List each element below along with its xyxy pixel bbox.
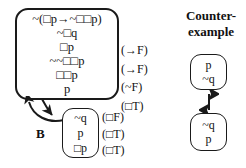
main-tableau-box: ~(□p→~□□p) ~□q □p ~~□□p □□p p — [15, 8, 119, 100]
lower-line-2: p — [78, 127, 84, 139]
ce-top-line-2: ~q — [202, 73, 215, 85]
lower-rule-3: (□T) — [102, 144, 125, 156]
ce-bottom-line-1: ~q — [202, 119, 215, 131]
counterexample-world-top: p ~q — [190, 54, 227, 90]
counterexample-world-bottom: ~q p — [190, 113, 227, 151]
relation-label-b: B — [36, 126, 45, 142]
main-rule-3: (~F) — [121, 81, 148, 93]
counterexample-title: Counter- example — [176, 8, 246, 40]
diagram-canvas: ~(□p→~□□p) ~□q □p ~~□□p □□p p (→F) (→F) … — [0, 0, 246, 168]
accessible-world-box: ~q p □p — [62, 108, 99, 158]
counterexample-title-line-1: Counter- — [176, 8, 246, 24]
main-line-6: p — [64, 83, 70, 96]
ce-bottom-line-2: p — [206, 133, 212, 145]
lower-line-3: □p — [74, 142, 87, 154]
counterexample-relation-arrow — [199, 90, 219, 114]
main-line-1: ~(□p→~□□p) — [32, 13, 102, 26]
lower-rule-annotations: (□F) (□T) (□T) — [102, 111, 125, 161]
main-rule-4: (□T) — [121, 100, 148, 112]
main-line-5: □□p — [56, 69, 77, 82]
main-rule-annotations: (→F) (→F) (~F) (□T) — [121, 44, 148, 118]
counterexample-title-line-2: example — [176, 24, 246, 40]
lower-line-1: ~q — [74, 112, 87, 124]
main-rule-2: (→F) — [121, 63, 148, 75]
lower-rule-2: (□T) — [102, 128, 125, 140]
ce-top-line-1: p — [206, 59, 212, 71]
main-rule-1: (→F) — [121, 44, 148, 56]
main-line-3: □p — [60, 41, 74, 54]
main-line-2: ~□q — [57, 27, 78, 40]
main-line-4: ~~□□p — [50, 55, 85, 68]
lower-rule-1: (□F) — [102, 111, 125, 123]
